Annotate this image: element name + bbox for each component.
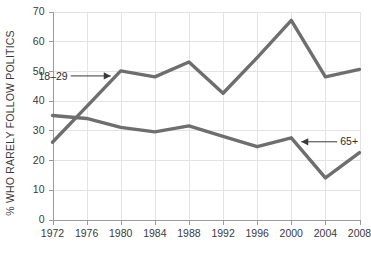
x-tick-label: 1984 [143,227,167,239]
series-label-65-: 65+ [340,135,358,147]
x-tick-label: 2004 [314,227,338,239]
line-chart: 010203040506070 197219761980198419881992… [0,0,371,255]
y-tick-label: 0 [39,213,45,225]
y-tick-label: 20 [33,154,45,166]
series-label-18-29: 18–29 [39,70,68,82]
y-tick-label: 10 [33,183,45,195]
x-tick-label: 1996 [245,227,269,239]
y-tick-label: 40 [33,94,45,106]
x-tick-label: 2008 [348,227,371,239]
x-tick-label: 1976 [75,227,99,239]
x-tick-label: 1980 [109,227,133,239]
x-tick-label: 2000 [280,227,304,239]
y-axis-title: % WHO RARELY FOLLOW POLITICS [4,30,16,216]
y-tick-label: 60 [33,35,45,47]
x-tick-label: 1988 [177,227,201,239]
x-tick-label: 1972 [41,227,65,239]
x-tick-label: 1992 [211,227,235,239]
y-tick-label: 70 [33,5,45,17]
chart-container: 010203040506070 197219761980198419881992… [0,0,371,255]
y-tick-label: 30 [33,124,45,136]
